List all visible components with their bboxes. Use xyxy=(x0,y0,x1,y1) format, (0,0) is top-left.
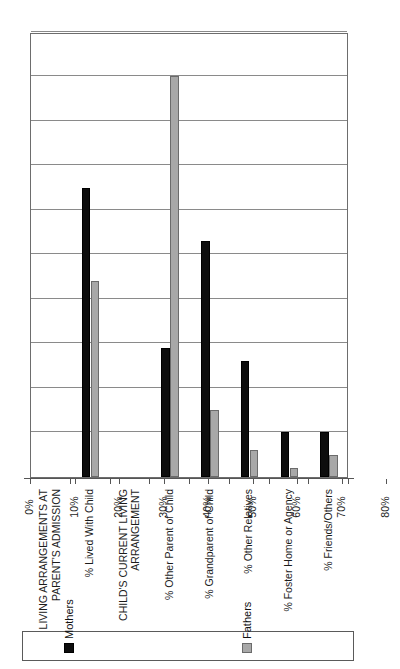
category-tick xyxy=(189,479,190,484)
bar-fathers-1 xyxy=(91,281,100,477)
category-tick xyxy=(30,479,31,484)
value-tick xyxy=(75,479,76,484)
gridline xyxy=(31,165,347,166)
gridline xyxy=(31,254,347,255)
category-group-header: LIVING ARRANGEMENTS AT PARENT'S ADMISSIO… xyxy=(37,489,62,664)
category-label: % Grandparent of Child xyxy=(203,489,216,664)
category-label: % Friends/Others xyxy=(322,489,335,664)
bar-fathers-4 xyxy=(210,410,219,477)
value-tick xyxy=(297,479,298,484)
bar-fathers-5 xyxy=(250,450,259,477)
category-tick xyxy=(348,479,349,484)
category-group-header: CHILD'S CURRENT LIVING ARRANGEMENT xyxy=(117,489,142,664)
gridline xyxy=(31,120,347,121)
value-tick xyxy=(342,479,343,484)
value-tick xyxy=(386,479,387,484)
category-label: % Foster Home or Agency xyxy=(282,489,295,664)
gridline xyxy=(31,343,347,344)
category-label: % Lived With Child xyxy=(83,489,96,664)
plot-area xyxy=(30,33,348,478)
category-tick xyxy=(229,479,230,484)
chart-stage: Mothers Fathers 0%10%20%30%40%50%60%70%8… xyxy=(0,0,400,669)
bar-fathers-7 xyxy=(329,455,338,477)
value-tick-label: 80% xyxy=(379,487,391,527)
gridline xyxy=(31,432,347,433)
category-tick xyxy=(110,479,111,484)
value-tick-label: 10% xyxy=(68,487,80,527)
bar-mothers-3 xyxy=(161,348,170,477)
legend-swatch-mothers xyxy=(64,643,74,653)
value-tick xyxy=(253,479,254,484)
bar-fathers-6 xyxy=(290,468,299,477)
value-tick xyxy=(119,479,120,484)
bar-mothers-1 xyxy=(82,188,91,477)
category-tick xyxy=(308,479,309,484)
chart-legend: Mothers Fathers xyxy=(22,631,354,661)
gridline xyxy=(31,298,347,299)
bar-fathers-3 xyxy=(170,77,179,478)
value-tick-label: 70% xyxy=(335,487,347,527)
value-tick xyxy=(208,479,209,484)
gridline xyxy=(31,76,347,77)
legend-label-mothers: Mothers xyxy=(63,599,75,639)
category-label: % Other Relatives xyxy=(242,489,255,664)
bar-mothers-6 xyxy=(281,433,290,478)
value-tick-label: 0% xyxy=(23,487,35,527)
category-tick xyxy=(269,479,270,484)
gridline xyxy=(31,387,347,388)
category-tick xyxy=(149,479,150,484)
legend-entry-mothers: Mothers xyxy=(63,599,75,653)
category-label: % Other Parent of Child xyxy=(163,489,176,664)
bar-mothers-4 xyxy=(201,241,210,477)
bar-mothers-7 xyxy=(320,433,329,478)
bar-mothers-5 xyxy=(241,361,250,477)
gridline xyxy=(31,209,347,210)
value-tick xyxy=(164,479,165,484)
category-tick xyxy=(70,479,71,484)
gridline xyxy=(31,31,347,32)
